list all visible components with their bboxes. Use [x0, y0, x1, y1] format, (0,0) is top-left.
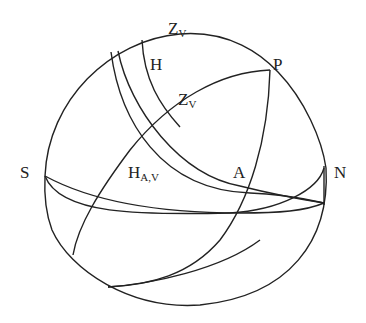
label-n: N — [334, 164, 346, 181]
hour-arc-h — [142, 40, 180, 127]
lower-arc — [108, 240, 260, 287]
label-zv-top: ZV — [168, 20, 186, 39]
label-h: H — [150, 56, 162, 73]
label-a: A — [233, 164, 245, 181]
label-sub: A,V — [140, 171, 159, 183]
label-p: P — [273, 56, 282, 73]
label-hav: HA,V — [128, 164, 159, 183]
vertical-circle-2b — [240, 186, 324, 203]
horizon-circle — [45, 176, 324, 213]
label-text: P — [273, 55, 282, 74]
label-text: H — [128, 163, 140, 182]
label-text: Z — [168, 19, 178, 38]
celestial-sphere-diagram — [0, 0, 366, 323]
label-text: H — [150, 55, 162, 74]
label-text: N — [334, 163, 346, 182]
label-text: A — [233, 163, 245, 182]
sphere-outline — [45, 34, 327, 306]
label-sub: V — [188, 98, 196, 110]
label-text: S — [20, 163, 29, 182]
label-s: S — [20, 164, 29, 181]
label-sub: V — [178, 27, 186, 39]
label-zv-mid: ZV — [178, 91, 196, 110]
label-text: Z — [178, 90, 188, 109]
